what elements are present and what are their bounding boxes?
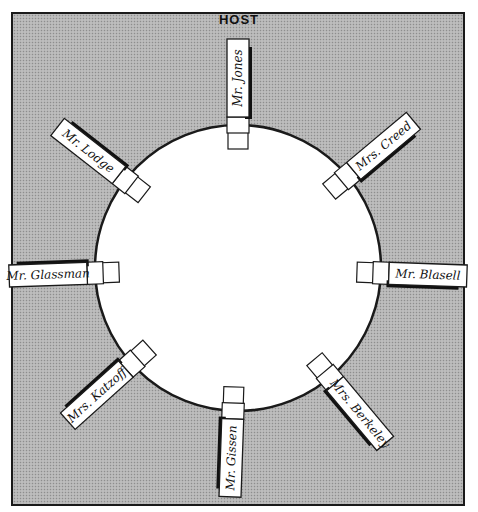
place-card: Mrs. Creed [322,112,422,202]
guest-name: Mrs. Creed [352,118,415,174]
card-fold-tab [228,131,248,149]
place-card: Mr. Lodge [51,116,153,203]
guest-name: Mrs. Berkeley [327,376,394,451]
place-card: Mrs. Berkeley [304,352,396,455]
guest-name: Mr. Gissen [223,425,239,491]
place-card: Mrs. Katzoff [58,337,156,429]
seating-diagram: HOST Mr. JonesMrs. CreedMr. BlasellMrs. … [0,0,478,512]
place-card: Mr. Jones [227,39,252,149]
guest-name: Mr. Jones [231,49,245,107]
place-card: Mr. Glassman [5,258,120,287]
guest-name: Mr. Blasell [394,266,461,282]
table-layer: Mr. JonesMrs. CreedMr. BlasellMrs. Berke… [0,0,478,512]
guest-name: Mr. Glassman [5,266,90,283]
guest-name: Mrs. Katzoff [64,363,132,426]
card-fold-tab [227,117,249,133]
